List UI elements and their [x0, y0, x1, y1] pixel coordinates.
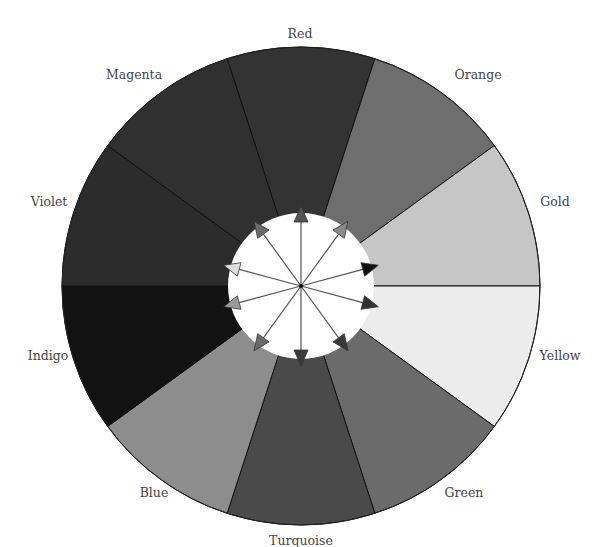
label-gold: Gold — [540, 194, 570, 209]
label-turquoise: Turquoise — [269, 533, 333, 547]
label-yellow: Yellow — [539, 348, 581, 363]
label-blue: Blue — [140, 485, 169, 500]
label-orange: Orange — [454, 67, 501, 82]
label-magenta: Magenta — [106, 67, 163, 82]
label-green: Green — [445, 485, 484, 500]
label-violet: Violet — [30, 194, 68, 209]
label-red: Red — [288, 26, 313, 41]
color-wheel-diagram: RedOrangeGoldYellowGreenTurquoiseBlueInd… — [0, 0, 608, 547]
label-indigo: Indigo — [28, 348, 69, 363]
center-hub — [299, 284, 303, 288]
